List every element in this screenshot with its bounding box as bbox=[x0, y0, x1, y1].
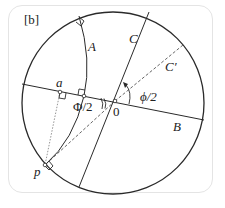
label-origin: 0 bbox=[113, 104, 120, 119]
label-a: a bbox=[56, 75, 63, 90]
point-p bbox=[43, 163, 47, 167]
label-A: A bbox=[87, 39, 96, 54]
label-Phi-half: Φ/2 bbox=[73, 99, 93, 114]
label-p: p bbox=[33, 164, 41, 179]
point-AB bbox=[82, 94, 86, 98]
phi-half-angle-arc bbox=[126, 85, 130, 104]
label-B: B bbox=[173, 119, 181, 134]
right-angle-top-icon bbox=[76, 17, 84, 26]
label-phi-half: ϕ/2 bbox=[140, 89, 157, 104]
label-C: C bbox=[129, 31, 138, 46]
point-origin bbox=[113, 99, 117, 103]
diagram-canvas: [b] A C C′ B a p 0 ϕ/2 Φ/2 bbox=[0, 0, 225, 208]
Phi-half-angle-arc-inner bbox=[104, 99, 106, 109]
line-a-to-p bbox=[45, 92, 60, 165]
point-a bbox=[58, 90, 62, 94]
panel-label: [b] bbox=[24, 12, 39, 27]
arc-A bbox=[45, 16, 87, 165]
label-C-prime: C′ bbox=[165, 59, 177, 74]
